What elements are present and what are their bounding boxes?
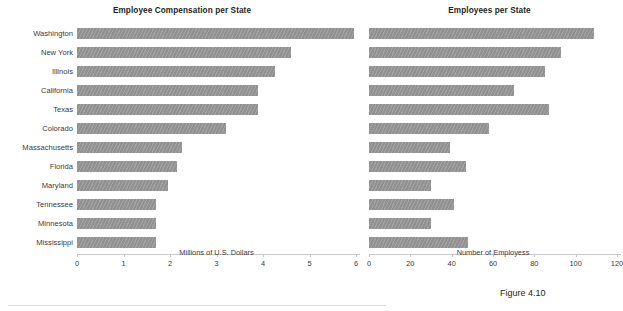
- figure-caption: Figure 4.10: [500, 288, 546, 298]
- x-axis-title-compensation: Millions of U.S. Dollars: [77, 248, 356, 257]
- bar-maryland: [77, 180, 168, 191]
- bar-row: [369, 47, 561, 58]
- bar-row: [369, 104, 549, 115]
- chart-title-employees: Employees per State: [362, 6, 617, 15]
- plot-area-compensation: 0123456: [77, 26, 356, 254]
- plot-area-employees: 020406080100120: [369, 26, 617, 254]
- bar-row: [369, 123, 489, 134]
- category-axis-labels: WashingtonNew YorkIllinoisCaliforniaTexa…: [0, 26, 73, 254]
- bar-texas: [77, 104, 258, 115]
- x-tick: [617, 254, 618, 257]
- x-axis-title-employees: Number of Employess: [369, 248, 617, 257]
- category-label-texas: Texas: [1, 104, 73, 115]
- x-tick-label: 2: [168, 259, 172, 268]
- category-label-california: California: [1, 85, 73, 96]
- x-tick: [356, 254, 357, 257]
- bar-colorado: [369, 123, 489, 134]
- bar-row: [77, 47, 291, 58]
- category-label-minnesota: Minnesota: [1, 218, 73, 229]
- bar-florida: [369, 161, 466, 172]
- bar-row: [369, 218, 431, 229]
- category-label-colorado: Colorado: [1, 123, 73, 134]
- bar-new-york: [77, 47, 291, 58]
- category-label-tennessee: Tennessee: [1, 199, 73, 210]
- category-label-new-york: New York: [1, 47, 73, 58]
- bar-row: [77, 180, 168, 191]
- x-tick-label: 60: [489, 259, 497, 268]
- bar-minnesota: [77, 218, 156, 229]
- bar-colorado: [77, 123, 226, 134]
- chart-title-compensation: Employee Compensation per State: [22, 6, 342, 15]
- bar-texas: [369, 104, 549, 115]
- bar-row: [369, 237, 468, 248]
- bar-row: [369, 199, 454, 210]
- bar-tennessee: [77, 199, 156, 210]
- bar-california: [77, 85, 258, 96]
- bar-row: [369, 66, 545, 77]
- bar-row: [77, 161, 177, 172]
- bar-row: [77, 85, 258, 96]
- bar-illinois: [369, 66, 545, 77]
- bar-row: [77, 199, 156, 210]
- bar-minnesota: [369, 218, 431, 229]
- x-tick-label: 80: [530, 259, 538, 268]
- bar-row: [369, 28, 594, 39]
- bar-mississippi: [77, 237, 156, 248]
- bar-california: [369, 85, 514, 96]
- x-tick-label: 1: [121, 259, 125, 268]
- bar-florida: [77, 161, 177, 172]
- bar-row: [77, 28, 354, 39]
- bar-row: [77, 104, 258, 115]
- category-label-washington: Washington: [1, 28, 73, 39]
- bar-row: [369, 142, 450, 153]
- category-label-massachusetts: Massachusetts: [1, 142, 73, 153]
- x-tick-label: 120: [611, 259, 623, 268]
- bar-row: [77, 66, 275, 77]
- x-tick-label: 3: [214, 259, 218, 268]
- category-label-mississippi: Mississippi: [1, 237, 73, 248]
- bar-illinois: [77, 66, 275, 77]
- category-label-illinois: Illinois: [1, 66, 73, 77]
- chart-panel-employees: Employees per State 020406080100120: [362, 0, 622, 290]
- footer-divider: [8, 305, 386, 306]
- x-tick-label: 100: [569, 259, 581, 268]
- bar-row: [77, 237, 156, 248]
- x-tick-label: 0: [75, 259, 79, 268]
- bar-maryland: [369, 180, 431, 191]
- bar-massachusetts: [77, 142, 182, 153]
- bar-new-york: [369, 47, 561, 58]
- bar-row: [77, 218, 156, 229]
- chart-panel-compensation: Employee Compensation per State Washingt…: [0, 0, 362, 290]
- bar-tennessee: [369, 199, 454, 210]
- bar-washington: [77, 28, 354, 39]
- x-tick-label: 6: [354, 259, 358, 268]
- bar-mississippi: [369, 237, 468, 248]
- bar-washington: [369, 28, 594, 39]
- bar-row: [369, 161, 466, 172]
- bar-row: [77, 142, 182, 153]
- x-tick-label: 40: [448, 259, 456, 268]
- x-tick-label: 20: [406, 259, 414, 268]
- x-tick-label: 4: [261, 259, 265, 268]
- bar-massachusetts: [369, 142, 450, 153]
- bar-row: [369, 85, 514, 96]
- x-tick-label: 5: [307, 259, 311, 268]
- category-label-florida: Florida: [1, 161, 73, 172]
- category-label-maryland: Maryland: [1, 180, 73, 191]
- bar-row: [77, 123, 226, 134]
- bar-row: [369, 180, 431, 191]
- x-tick-label: 0: [367, 259, 371, 268]
